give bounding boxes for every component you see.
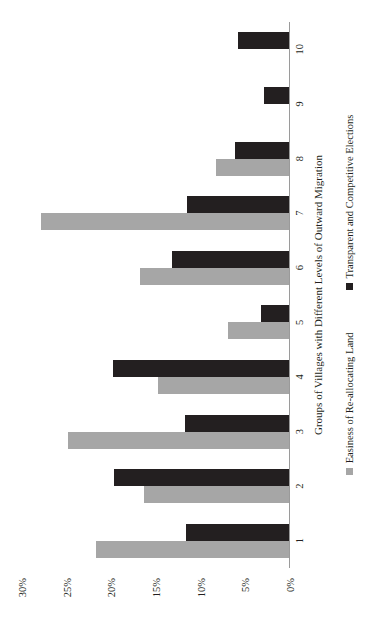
bar-chart-figure: 0%5%10%15%20%25%30% 12345678910 Groups o… — [0, 0, 392, 620]
bar-group — [22, 350, 290, 405]
category-axis-labels: 12345678910 — [292, 22, 308, 568]
bar-series-a — [41, 213, 290, 230]
rotated-figure-wrapper: 0%5%10%15%20%25%30% 12345678910 Groups o… — [0, 0, 392, 620]
category-tick-label: 10 — [292, 22, 308, 77]
bar-group — [22, 77, 290, 132]
legend-item: Easiness of Re-allocating Land — [344, 332, 355, 475]
bar-series-a — [140, 268, 290, 285]
bar-series-b — [264, 87, 290, 104]
legend-item: Transparent and Competitive Elections — [344, 115, 355, 291]
legend-label: Easiness of Re-allocating Land — [344, 332, 355, 463]
bar-group — [22, 513, 290, 568]
category-tick-label: 9 — [292, 77, 308, 132]
bar-series-a — [68, 432, 290, 449]
category-tick-label: 2 — [292, 459, 308, 514]
category-tick-label: 4 — [292, 350, 308, 405]
value-axis-labels: 0%5%10%15%20%25%30% — [22, 574, 290, 620]
bar-series-b — [113, 360, 290, 377]
legend-swatch-icon — [346, 468, 353, 475]
value-axis-tick-label: 5% — [240, 578, 251, 592]
bar-group — [22, 131, 290, 186]
bar-series-b — [185, 415, 290, 432]
category-tick-label: 3 — [292, 404, 308, 459]
plot-area — [22, 22, 290, 568]
bar-group — [22, 240, 290, 295]
chart-legend: Easiness of Re-allocating LandTransparen… — [344, 22, 355, 568]
legend-swatch-icon — [346, 283, 353, 290]
bar-series-b — [238, 32, 290, 49]
value-axis-tick-label: 30% — [17, 578, 28, 597]
bar-series-a — [158, 377, 290, 394]
bar-series-b — [187, 196, 290, 213]
bar-series-b — [186, 524, 290, 541]
category-tick-label: 5 — [292, 295, 308, 350]
value-axis-tick-label: 0% — [285, 578, 296, 592]
category-tick-label: 6 — [292, 240, 308, 295]
category-axis-line — [289, 22, 290, 568]
bar-group — [22, 459, 290, 514]
bar-series-a — [96, 541, 290, 558]
category-tick-label: 8 — [292, 131, 308, 186]
bar-group — [22, 186, 290, 241]
legend-label: Transparent and Competitive Elections — [344, 115, 355, 279]
category-tick-label: 1 — [292, 513, 308, 568]
value-axis-tick-label: 10% — [195, 578, 206, 597]
bar-groups — [22, 22, 290, 568]
bar-group — [22, 295, 290, 350]
bar-series-a — [228, 322, 290, 339]
bar-series-b — [261, 305, 290, 322]
category-tick-label: 7 — [292, 186, 308, 241]
value-axis-tick-label: 20% — [106, 578, 117, 597]
bar-series-b — [172, 251, 290, 268]
category-axis-title: Groups of Villages with Different Levels… — [312, 22, 324, 568]
bar-group — [22, 22, 290, 77]
bar-series-b — [235, 142, 290, 159]
bar-group — [22, 404, 290, 459]
bar-series-b — [114, 469, 290, 486]
bar-series-a — [216, 159, 290, 176]
value-axis-tick-label: 25% — [61, 578, 72, 597]
bar-series-a — [144, 486, 290, 503]
value-axis-tick-label: 15% — [151, 578, 162, 597]
